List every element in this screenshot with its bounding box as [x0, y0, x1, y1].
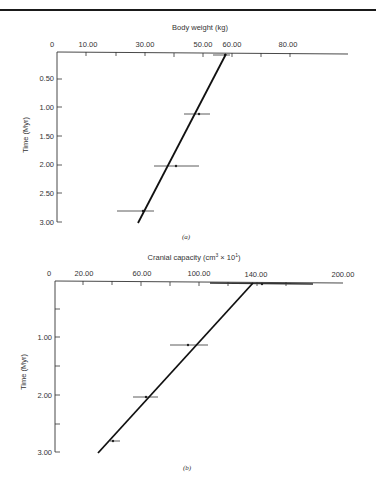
panel-b-x-label: 100.00: [188, 269, 211, 278]
panel-b-x-axis-title: Cranial capacity (cm3 × 101): [148, 252, 241, 262]
panel-a-x-label: 80.00: [279, 40, 298, 49]
panel-a-x-axis: [57, 52, 348, 54]
panel-b-y-label: 1.00: [37, 333, 52, 342]
panel-a-x-axis-title: Body weight (kg): [172, 23, 228, 32]
panel-b-origin-label: 0: [47, 269, 51, 278]
panel-b-regression-line: [98, 283, 253, 453]
panel-a-x-label: 50.00: [194, 40, 213, 49]
panel-b-x-label: 140.00: [245, 270, 268, 279]
panel-b-mean-markers: [112, 283, 263, 442]
panel-b-x-label: 200.00: [332, 270, 355, 279]
panel-b-caption: (b): [183, 464, 192, 472]
panel-b-y-label: 2.00: [37, 391, 52, 400]
panel-a-y-axis-title: Time (Myr): [21, 117, 30, 153]
panel-a-y-label: 1.00: [39, 103, 54, 112]
panel-b-y-axis-title: Time (Myr): [19, 354, 28, 390]
panel-a-y-label: 2.50: [39, 189, 54, 198]
panel-a-x-label: 60.00: [223, 40, 242, 49]
panel-a-x-label: 10.00: [79, 40, 98, 49]
panel-a-chart: Body weight (kg) 0 10.00 30.00 50.00 60.…: [21, 23, 348, 241]
panel-a-y-ticks: [57, 79, 62, 222]
panel-a-y-label: 2.00: [39, 160, 54, 169]
panel-b-x-label: 60.00: [133, 269, 152, 278]
figure: Body weight (kg) 0 10.00 30.00 50.00 60.…: [0, 0, 376, 488]
panel-b-chart: Cranial capacity (cm3 × 101) 0 20.00 60.…: [19, 252, 354, 472]
panel-b-y-label: 3.00: [37, 448, 52, 457]
panel-a-y-label: 1.50: [39, 132, 54, 141]
panel-b-x-label: 20.00: [75, 269, 94, 278]
panel-a-y-label: 3.00: [39, 218, 54, 227]
panel-a-y-label: 0.50: [39, 74, 54, 83]
panel-b-error-bars: [110, 283, 313, 441]
panel-a-caption: (a): [182, 233, 191, 241]
panel-a-x-label: 30.00: [136, 40, 155, 49]
panel-a-origin-label: 0: [50, 40, 54, 49]
panel-a-regression-line: [138, 54, 226, 223]
panel-b-y-ticks: [55, 309, 60, 452]
